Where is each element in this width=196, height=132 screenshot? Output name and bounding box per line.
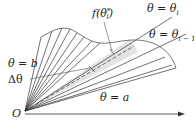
label-theta-i: θ = θi bbox=[147, 2, 179, 17]
label-origin: O bbox=[12, 107, 21, 120]
label-theta-i-minus-1: θ = θi − 1 bbox=[149, 28, 195, 43]
polar-area-diagram: f(θ*i) θ = θi θ = θi − 1 θ = b Δθ θ = a … bbox=[0, 0, 196, 132]
ray-theta-a bbox=[25, 68, 176, 111]
x-axis-arrowhead bbox=[178, 112, 185, 117]
label-f-theta-star: f(θ*i) bbox=[91, 7, 113, 21]
label-theta-a: θ = a bbox=[100, 91, 129, 104]
label-delta-theta: Δθ bbox=[8, 73, 23, 86]
f-label-leader bbox=[104, 22, 112, 51]
label-theta-b: θ = b bbox=[8, 57, 38, 70]
